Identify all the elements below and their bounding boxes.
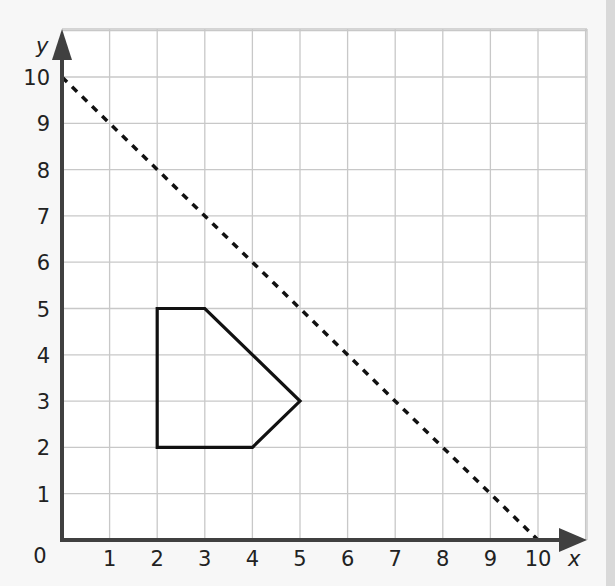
x-tick-label: 2 [151, 547, 164, 571]
x-axis-label: x [567, 547, 581, 571]
y-tick-label: 8 [37, 159, 50, 183]
x-tick-label: 3 [198, 547, 211, 571]
x-tick-label: 7 [389, 547, 402, 571]
x-tick-label: 6 [341, 547, 354, 571]
y-tick-label: 5 [37, 298, 50, 322]
y-tick-label: 10 [23, 66, 50, 90]
x-tick-label: 9 [484, 547, 497, 571]
y-tick-label: 1 [37, 483, 50, 507]
coordinate-grid-chart: 1234567891012345678910 0 x y [0, 0, 606, 586]
grid-background [62, 29, 587, 540]
y-tick-label: 7 [37, 205, 50, 229]
x-tick-label: 1 [103, 547, 116, 571]
y-tick-label: 9 [37, 112, 50, 136]
y-axis-label: y [35, 34, 49, 58]
y-tick-label: 3 [37, 390, 50, 414]
x-tick-label: 8 [436, 547, 449, 571]
page-edge-strip [606, 0, 615, 586]
y-tick-label: 2 [37, 436, 50, 460]
y-tick-label: 6 [37, 251, 50, 275]
origin-label: 0 [33, 544, 46, 568]
x-tick-label: 10 [525, 547, 552, 571]
y-tick-label: 4 [37, 344, 50, 368]
x-tick-label: 5 [293, 547, 306, 571]
x-tick-label: 4 [246, 547, 259, 571]
